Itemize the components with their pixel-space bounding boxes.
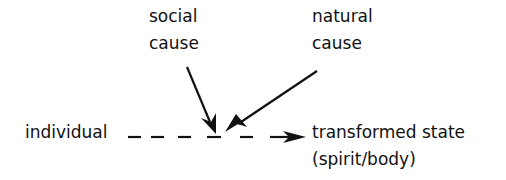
arrowhead-downleft-icon	[225, 114, 247, 132]
natural-cause-arrow	[238, 71, 317, 124]
diagram-connectors	[0, 0, 506, 180]
social-cause-arrow	[187, 67, 210, 122]
